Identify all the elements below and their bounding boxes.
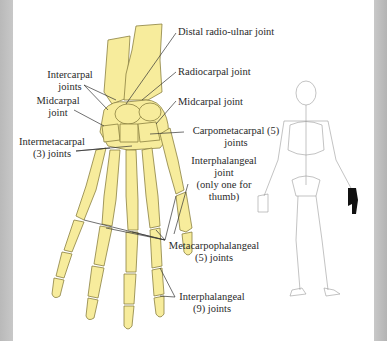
left-arm [328, 121, 352, 190]
label-distal-radio-ulnar: Distal radio-ulnar joint [178, 26, 274, 38]
label-radiocarpal: Radiocarpal joint [178, 66, 251, 78]
right-leg [296, 196, 300, 290]
label-interphalangeal-thumb: Interphalangeal joint (only one for thum… [186, 155, 262, 203]
scaphoid-bone [139, 103, 161, 121]
label-carpometacarpal: Carpometacarpal (5) joints [186, 125, 286, 149]
metacarpal-4 [102, 150, 120, 226]
skeleton-inset [258, 81, 352, 296]
metacarpal-3 [126, 150, 138, 230]
lunate-bone [115, 104, 141, 124]
label-interphalangeal: Interphalangeal (9) joints [172, 291, 252, 315]
skull [296, 81, 316, 105]
label-midcarpal-right: Midcarpal joint [178, 96, 243, 108]
label-midcarpal-left: Midcarpal joint [28, 95, 88, 119]
left-leg [316, 196, 328, 290]
metacarpal-2 [142, 148, 160, 228]
label-intercarpal: Intercarpal joints [36, 69, 104, 93]
highlighted-hand-icon [348, 188, 358, 214]
metacarpal-1-thumb [160, 128, 184, 194]
label-intermetacarpal: Intermetacarpal (3) joints [14, 136, 90, 160]
label-metacarpophalangeal: Metacarpophalangeal (5) joints [164, 240, 264, 264]
